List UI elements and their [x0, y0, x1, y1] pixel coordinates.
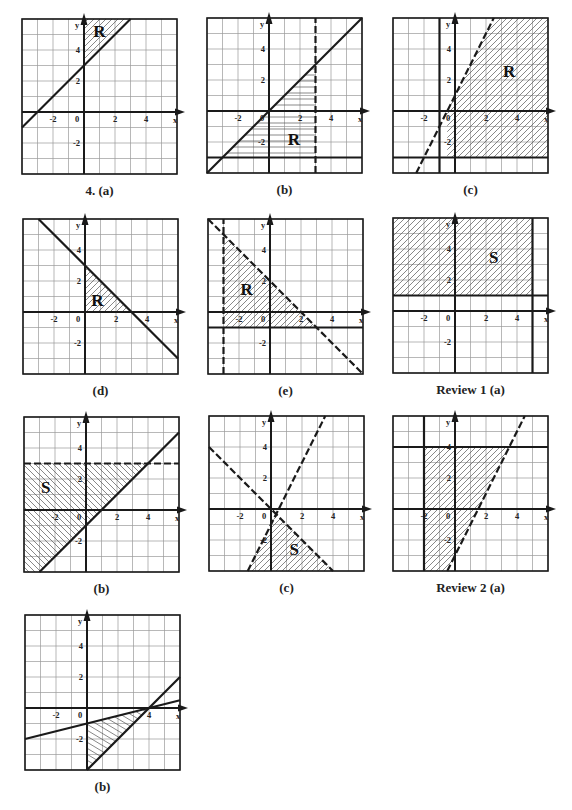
y-tick-label: 2	[76, 76, 80, 86]
graph-r2b: -20442-2xy	[25, 615, 180, 770]
y-axis-label: y	[78, 616, 83, 626]
coordinate-plane: -20442-2xy	[25, 615, 180, 770]
y-tick-label: 2	[447, 473, 451, 483]
y-tick-label: -2	[258, 137, 265, 147]
coordinate-plane: -202442-2xyS	[24, 417, 179, 572]
x-tick-label: 0	[446, 313, 450, 323]
y-tick-label: -2	[259, 338, 266, 348]
y-tick-label: -2	[75, 536, 82, 546]
x-tick-label: -2	[420, 511, 427, 521]
x-tick-label: 2	[299, 314, 303, 324]
y-tick-label: 2	[78, 474, 82, 484]
y-tick-label: -2	[444, 337, 451, 347]
y-tick-label: -2	[444, 535, 451, 545]
graph-caption: (b)	[95, 779, 111, 795]
graph-caption: Review 1 (a)	[436, 382, 505, 398]
x-tick-label: 4	[515, 313, 520, 323]
x-tick-label: -2	[49, 114, 56, 124]
boundary-line	[39, 219, 179, 359]
x-tick-label: 0	[262, 511, 266, 521]
graph-r1b: -202442-2xyS	[24, 417, 179, 572]
y-tick-label: 2	[79, 672, 83, 682]
graph-g4c: -202442-2xyR	[393, 18, 548, 173]
y-tick-label: -2	[73, 138, 80, 148]
x-tick-label: -2	[420, 313, 427, 323]
x-tick-label: -2	[50, 314, 57, 324]
x-tick-label: 4	[331, 511, 336, 521]
x-tick-label: 2	[484, 113, 488, 123]
y-axis-label: y	[262, 417, 267, 427]
x-tick-label: 2	[298, 113, 302, 123]
x-tick-label: -2	[52, 710, 59, 720]
x-tick-label: 2	[484, 313, 488, 323]
x-tick-label: 2	[484, 511, 488, 521]
y-tick-label: 2	[263, 473, 267, 483]
x-tick-label: 4	[146, 512, 151, 522]
graph-caption: (b)	[277, 182, 293, 198]
x-tick-label: -2	[235, 314, 242, 324]
graph-g4a: -202442-2xyR	[22, 19, 177, 174]
graph-g4b: -202442-2xyR	[207, 18, 362, 173]
graph-r2a: -202442-2xy	[393, 416, 548, 571]
x-tick-label: 2	[300, 511, 304, 521]
graph-caption: (c)	[463, 182, 477, 198]
y-tick-label: -2	[74, 338, 81, 348]
x-tick-label: 4	[329, 113, 334, 123]
coordinate-plane: -202442-2xy	[393, 416, 548, 571]
region-label: S	[41, 478, 50, 497]
shaded-region	[447, 18, 548, 158]
y-axis-label: y	[75, 20, 80, 30]
graph-caption: Review 2 (a)	[436, 580, 505, 596]
region-label: S	[489, 248, 498, 267]
x-tick-label: 2	[113, 114, 117, 124]
x-tick-label: 0	[77, 512, 81, 522]
y-tick-label: 2	[261, 75, 265, 85]
y-tick-label: -2	[444, 137, 451, 147]
x-tick-label: 4	[330, 314, 335, 324]
graph-caption: (d)	[93, 383, 109, 399]
region-label: R	[241, 280, 254, 299]
y-axis-label: y	[260, 19, 265, 29]
graph-caption: 4. (a)	[85, 183, 113, 199]
y-axis-label: y	[446, 19, 451, 29]
x-tick-label: 4	[147, 710, 152, 720]
y-axis-label: y	[446, 417, 451, 427]
y-axis-label: y	[261, 220, 266, 230]
graph-g4d: -202442-2xyR	[23, 219, 178, 374]
graph-r1c: -202442-2xyS	[209, 416, 364, 571]
x-tick-label: 2	[114, 314, 118, 324]
region-label: R	[93, 22, 106, 41]
region-label: S	[290, 540, 299, 559]
region-label: R	[503, 62, 516, 81]
graph-caption: (c)	[279, 580, 293, 596]
region-label: R	[91, 291, 104, 310]
x-tick-label: 0	[261, 314, 265, 324]
coordinate-plane: -202442-2xyR	[208, 219, 363, 374]
x-tick-label: 0	[446, 511, 450, 521]
x-tick-label: -2	[420, 113, 427, 123]
coordinate-plane: -202442-2xyR	[207, 18, 362, 173]
y-tick-label: 2	[447, 75, 451, 85]
graph-g4e: -202442-2xyR	[208, 219, 363, 374]
x-tick-label: 0	[75, 114, 79, 124]
y-axis-label: y	[77, 418, 82, 428]
y-tick-label: 2	[262, 276, 266, 286]
x-tick-label: 0	[76, 314, 80, 324]
coordinate-plane: -202442-2xyS	[209, 416, 364, 571]
x-tick-label: 0	[78, 710, 82, 720]
x-tick-label: 2	[115, 512, 119, 522]
coordinate-plane: -202442-2xyR	[22, 19, 177, 174]
graph-r1a: -202442-2xyS	[393, 218, 548, 373]
y-tick-label: -2	[76, 734, 83, 744]
x-tick-label: 0	[446, 113, 450, 123]
y-tick-label: -2	[260, 535, 267, 545]
shaded-region	[393, 218, 533, 296]
coordinate-plane: -202442-2xyR	[23, 219, 178, 374]
y-axis-label: y	[76, 220, 81, 230]
x-tick-label: 4	[145, 314, 150, 324]
x-tick-label: -2	[234, 113, 241, 123]
y-tick-label: 2	[77, 276, 81, 286]
x-tick-label: 4	[144, 114, 149, 124]
coordinate-plane: -202442-2xyR	[393, 18, 548, 173]
coordinate-plane: -202442-2xyS	[393, 218, 548, 373]
